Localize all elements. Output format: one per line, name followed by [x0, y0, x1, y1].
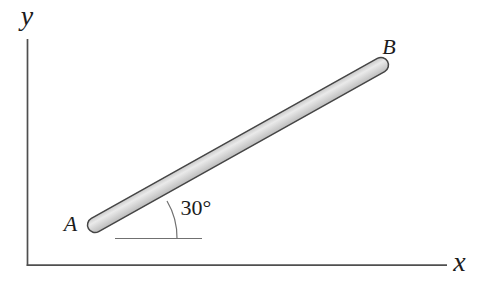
rod-incline-diagram: y x A B 30°: [0, 0, 489, 289]
rod-body: [95, 65, 381, 225]
angle-arc: [167, 201, 177, 239]
point-a-label: A: [62, 211, 78, 236]
y-axis-label: y: [18, 0, 34, 31]
angle-value-label: 30°: [181, 195, 212, 220]
point-b-label: B: [382, 34, 395, 59]
x-axis-label: x: [452, 246, 466, 277]
diagram-canvas: y x A B 30°: [0, 0, 489, 289]
